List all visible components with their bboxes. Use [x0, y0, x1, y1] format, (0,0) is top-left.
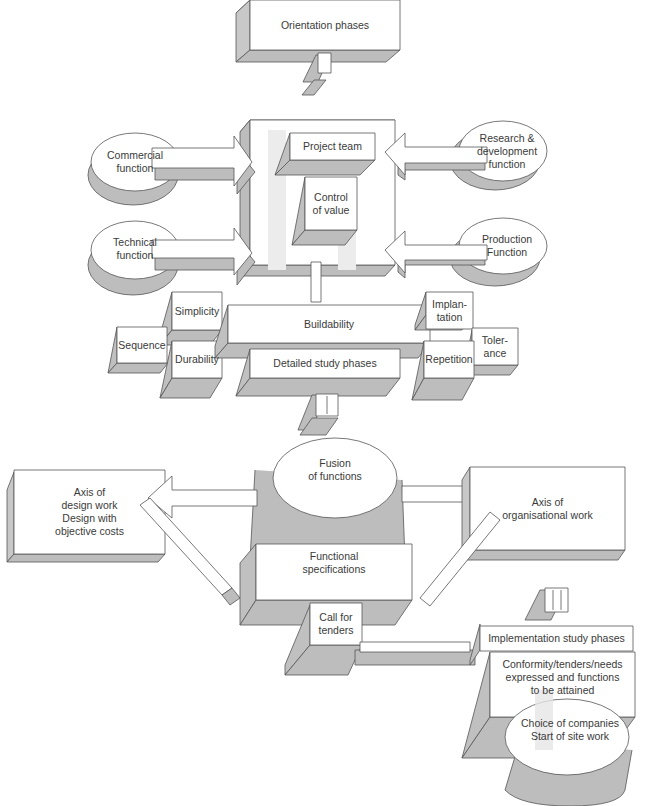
- implantation-box: Implan- tation: [426, 292, 473, 329]
- repetition-box: Repetition: [424, 341, 474, 378]
- conformity-box: Conformity/tenders/needs expressed and f…: [490, 652, 635, 702]
- technical-function-node: Technical function: [91, 222, 179, 276]
- sequence-box: Sequence: [117, 327, 167, 363]
- research-development-node: Research & development function: [462, 121, 552, 181]
- orientation-phases-label: Orientation phases: [250, 0, 400, 50]
- detailed-study-phases-box: Detailed study phases: [250, 349, 400, 378]
- organisational-axis-box: Axis of organisational work: [470, 467, 625, 550]
- fusion-of-functions-node: Fusion of functions: [290, 450, 380, 490]
- design-axis-box: Axis of design work Design with objectiv…: [14, 470, 165, 554]
- control-of-value-box: Control of value: [305, 177, 357, 230]
- implementation-study-phases-box: Implementation study phases: [480, 626, 633, 651]
- call-for-tenders-box: Call for tenders: [310, 603, 362, 645]
- commercial-function-node: Commercial function: [91, 135, 179, 189]
- production-function-node: Production Function: [462, 218, 552, 274]
- simplicity-box: Simplicity: [172, 292, 222, 330]
- tolerance-box: Toler- ance: [472, 328, 518, 365]
- buildability-box: Buildability: [228, 305, 430, 343]
- functional-specifications-box: Functional specifications: [256, 544, 412, 600]
- durability-box: Durability: [172, 341, 222, 378]
- project-team-box: Project team: [290, 133, 375, 160]
- choice-of-companies-node: Choice of companies Start of site work: [515, 710, 625, 750]
